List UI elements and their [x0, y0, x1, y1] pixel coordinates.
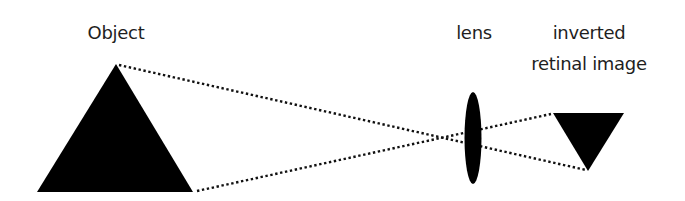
lens-label: lens — [448, 24, 500, 42]
lens-inversion-diagram: Object lens inverted retinal image — [0, 0, 685, 201]
inverted-image-label-line2: retinal image — [518, 55, 660, 73]
inverted-image-label-line1: inverted — [538, 24, 640, 42]
inverted-image-triangle — [553, 113, 624, 171]
object-triangle — [37, 64, 193, 192]
top-ray-dotted-line — [119, 65, 586, 170]
bottom-ray-dotted-line — [197, 114, 551, 191]
object-label: Object — [79, 24, 153, 42]
lens-ellipse — [465, 92, 482, 184]
